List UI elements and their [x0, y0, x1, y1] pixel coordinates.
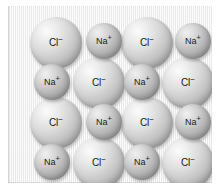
ion-charge: − — [190, 75, 195, 84]
ion-charge: + — [56, 154, 60, 163]
ion-label: Cl− — [49, 38, 63, 48]
ion-sodium-r4c3: Na+ — [124, 144, 160, 180]
ion-charge: + — [146, 154, 150, 163]
ion-chloride-r1c3: Cl− — [121, 17, 173, 69]
ion-charge: − — [58, 35, 63, 44]
ion-sodium-r2c1: Na+ — [34, 64, 70, 100]
ion-label: Cl− — [92, 158, 106, 168]
ion-chloride-r4c2: Cl− — [73, 137, 125, 183]
ion-label: Cl− — [49, 118, 63, 128]
ion-label: Na+ — [134, 158, 150, 167]
ion-charge: + — [108, 33, 112, 42]
ion-charge: + — [56, 74, 60, 83]
ion-sodium-r3c2: Na+ — [86, 104, 122, 140]
ion-chloride-r4c4: Cl− — [162, 137, 212, 183]
ion-label: Cl− — [140, 118, 154, 128]
ion-label: Na+ — [96, 37, 112, 46]
ion-label: Na+ — [44, 78, 60, 87]
ion-label: Na+ — [185, 118, 201, 127]
ion-charge: − — [101, 155, 106, 164]
ion-sodium-r1c4: Na+ — [175, 23, 211, 59]
ion-charge: + — [197, 114, 201, 123]
ion-charge: + — [108, 114, 112, 123]
ion-chloride-r1c1: Cl− — [30, 17, 82, 69]
ion-sodium-r1c2: Na+ — [86, 23, 122, 59]
ion-charge: − — [101, 75, 106, 84]
ion-charge: + — [146, 74, 150, 83]
ion-chloride-r2c2: Cl− — [73, 57, 125, 109]
lattice-panel: Cl−Cl−Cl−Cl−Cl−Cl−Cl−Cl−Na+Na+Na+Na+Na+N… — [8, 6, 212, 183]
panel-left-edge — [8, 6, 9, 183]
ion-sodium-r3c4: Na+ — [175, 104, 211, 140]
ion-label: Cl− — [92, 78, 106, 88]
ion-sodium-r4c1: Na+ — [34, 144, 70, 180]
ion-charge: + — [197, 33, 201, 42]
ion-chloride-r3c3: Cl− — [121, 97, 173, 149]
ion-label: Na+ — [134, 78, 150, 87]
ion-charge: − — [58, 115, 63, 124]
ion-label: Cl− — [181, 78, 195, 88]
ion-sodium-r2c3: Na+ — [124, 64, 160, 100]
ion-label: Na+ — [44, 158, 60, 167]
ion-charge: − — [190, 155, 195, 164]
ion-chloride-r3c1: Cl− — [30, 97, 82, 149]
sodium-chloride-lattice-figure: Cl−Cl−Cl−Cl−Cl−Cl−Cl−Cl−Na+Na+Na+Na+Na+N… — [0, 0, 220, 191]
ion-label: Cl− — [140, 38, 154, 48]
ion-chloride-r2c4: Cl− — [162, 57, 212, 109]
ion-charge: − — [149, 115, 154, 124]
ion-label: Cl− — [181, 158, 195, 168]
ion-label: Na+ — [185, 37, 201, 46]
ion-charge: − — [149, 35, 154, 44]
ion-label: Na+ — [96, 118, 112, 127]
